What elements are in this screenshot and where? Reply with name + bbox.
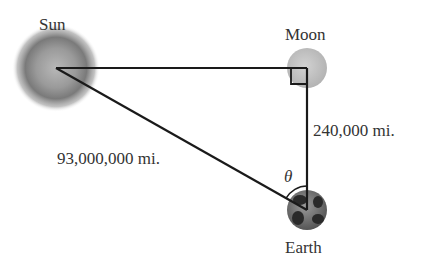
theta-label: θ	[284, 168, 292, 185]
earth-moon-distance-label: 240,000 mi.	[313, 122, 395, 139]
sun-label: Sun	[39, 16, 65, 33]
earth-label: Earth	[285, 239, 322, 256]
sun-moon-earth-diagram: Sun Moon Earth 240,000 mi. 93,000,000 mi…	[0, 0, 444, 268]
sun-earth-distance-label: 93,000,000 mi.	[57, 150, 160, 167]
moon-label: Moon	[285, 26, 326, 43]
sun-earth-line	[56, 68, 307, 210]
